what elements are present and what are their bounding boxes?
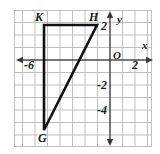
axes — [18, 13, 151, 144]
grid-lines — [14, 10, 152, 147]
vertex-label-H: H — [89, 11, 98, 23]
y-tick--2: -2 — [97, 79, 107, 91]
origin-label: O — [113, 50, 121, 61]
graph-svg — [0, 0, 160, 154]
axis-arrowheads — [16, 11, 153, 146]
vertex-label-G: G — [38, 132, 47, 144]
x-tick--6: -6 — [24, 59, 34, 71]
coordinate-plane-figure: K H G x y O -6 2 2 -2 -4 — [0, 0, 160, 154]
x-axis-label: x — [142, 40, 148, 51]
y-axis-label: y — [117, 14, 122, 25]
y-axis-arrow-down — [107, 139, 113, 146]
y-tick-2: 2 — [101, 20, 107, 32]
vertex-label-K: K — [35, 11, 43, 23]
x-tick-2: 2 — [132, 59, 138, 71]
x-axis-arrow-left — [16, 57, 23, 63]
triangle-GHK — [44, 25, 97, 130]
y-axis-arrow-up — [107, 11, 113, 18]
y-tick--4: -4 — [97, 104, 107, 116]
